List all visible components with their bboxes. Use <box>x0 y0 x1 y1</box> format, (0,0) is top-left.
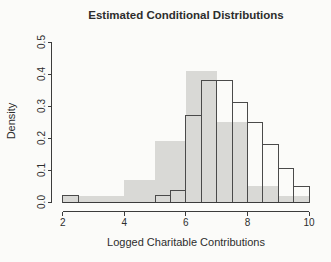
y-tick-label: 0.4 <box>36 67 47 81</box>
y-axis: 0.00.10.20.30.40.5 <box>36 35 51 209</box>
y-axis-label: Density <box>5 102 17 139</box>
plot-area: 246810 0.00.10.20.30.40.5 Estimated Cond… <box>0 0 331 262</box>
shaded-histogram-bar <box>94 196 125 202</box>
histogram-figure: 246810 0.00.10.20.30.40.5 Estimated Cond… <box>0 0 331 262</box>
x-axis-label: Logged Charitable Contributions <box>107 236 265 248</box>
x-tick-label: 4 <box>122 217 128 228</box>
x-tick-label: 2 <box>60 217 66 228</box>
y-tick-label: 0.2 <box>36 131 47 145</box>
x-tick-label: 6 <box>183 217 189 228</box>
x-tick-label: 8 <box>245 217 251 228</box>
shaded-histogram-bar <box>124 180 155 202</box>
y-tick-label: 0.1 <box>36 163 47 177</box>
x-axis: 246810 <box>60 212 315 229</box>
y-tick-label: 0.5 <box>36 35 47 49</box>
chart-title: Estimated Conditional Distributions <box>88 9 284 21</box>
y-tick-label: 0.3 <box>36 99 47 113</box>
y-tick-label: 0.0 <box>36 195 47 209</box>
x-tick-label: 10 <box>304 217 316 228</box>
